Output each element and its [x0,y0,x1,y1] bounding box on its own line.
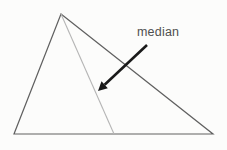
arrow-shaft [105,45,147,85]
triangle-figure [0,0,227,150]
median-diagram: median [0,0,227,150]
median-label: median [137,25,179,39]
median-line [61,14,114,134]
triangle-outline [14,14,213,134]
